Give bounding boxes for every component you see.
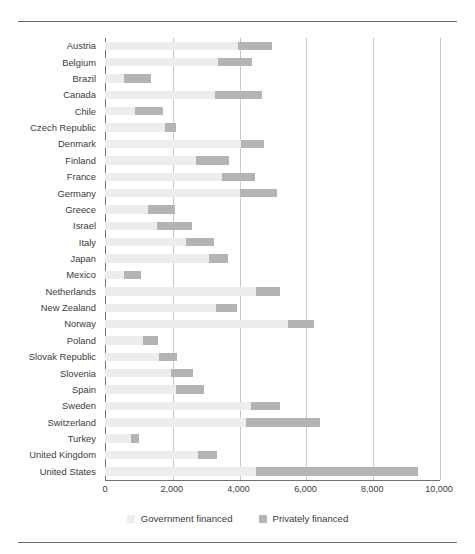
category-label: Greece (0, 205, 96, 215)
category-label: Switzerland (0, 418, 96, 428)
bar-segment-government (105, 42, 238, 50)
bar-row (105, 38, 439, 54)
bar-row (105, 136, 439, 152)
gridline-10000 (440, 38, 441, 480)
category-label: Belgium (0, 58, 96, 68)
bar-segment-private (222, 173, 255, 181)
bar-row (105, 87, 439, 103)
category-label: Brazil (0, 74, 96, 84)
bar-row (105, 185, 439, 201)
bar-row (105, 349, 439, 365)
category-label: Japan (0, 254, 96, 264)
category-label: Israel (0, 221, 96, 231)
bar-segment-government (105, 418, 246, 426)
category-label: Spain (0, 385, 96, 395)
bar-segment-private (256, 467, 418, 475)
x-tick-label: 8,000 (361, 484, 384, 494)
bar-segment-private (251, 402, 280, 410)
legend-swatch-gov (127, 515, 135, 523)
bar-segment-private (240, 189, 277, 197)
bar-segment-private (198, 451, 217, 459)
category-label: Denmark (0, 139, 96, 149)
bar-segment-private (131, 434, 139, 442)
bar-row (105, 169, 439, 185)
category-label: Poland (0, 336, 96, 346)
chart-legend: Government financedPrivately financed (0, 513, 475, 524)
bar-segment-private (135, 107, 163, 115)
bar-segment-private (196, 156, 229, 164)
bar-segment-private (176, 385, 204, 393)
bar-segment-private (215, 91, 262, 99)
category-label: Sweden (0, 401, 96, 411)
category-label: Netherlands (0, 287, 96, 297)
category-label: Chile (0, 107, 96, 117)
bar-row (105, 284, 439, 300)
x-tick-label: 6,000 (294, 484, 317, 494)
bar-segment-private (148, 205, 175, 213)
bar-row (105, 218, 439, 234)
x-tick-label: 2,000 (161, 484, 184, 494)
bar-row (105, 382, 439, 398)
bar-row (105, 234, 439, 250)
bar-segment-private (288, 320, 314, 328)
bar-segment-government (105, 254, 209, 262)
category-label: Norway (0, 319, 96, 329)
category-label: Slovenia (0, 369, 96, 379)
x-tick-label: 4,000 (227, 484, 250, 494)
bar-segment-private (165, 123, 176, 131)
bar-segment-private (246, 418, 320, 426)
bar-row (105, 267, 439, 283)
bar-segment-government (105, 123, 165, 131)
bar-segment-government (105, 467, 256, 475)
bar-segment-government (105, 156, 196, 164)
bar-row (105, 202, 439, 218)
bar-segment-government (105, 222, 157, 230)
bar-segment-private (209, 254, 228, 262)
bar-row (105, 464, 439, 480)
bar-segment-private (218, 58, 252, 66)
bar-row (105, 71, 439, 87)
category-label: United Kingdom (0, 450, 96, 460)
bar-segment-private (159, 353, 177, 361)
bar-segment-private (124, 74, 151, 82)
bar-row (105, 316, 439, 332)
bar-row (105, 153, 439, 169)
plot-area: AustriaBelgiumBrazilCanadaChileCzech Rep… (0, 38, 475, 488)
bar-segment-government (105, 451, 198, 459)
bar-row (105, 333, 439, 349)
category-label: Mexico (0, 270, 96, 280)
category-label: Austria (0, 41, 96, 51)
legend-label: Privately financed (273, 513, 349, 524)
bar-row (105, 120, 439, 136)
bar-row (105, 54, 439, 70)
bar-segment-private (157, 222, 192, 230)
legend-item[interactable]: Government financed (127, 513, 233, 524)
bar-segment-government (105, 369, 171, 377)
bar-segment-private (171, 369, 193, 377)
bar-segment-private (143, 336, 158, 344)
legend-item[interactable]: Privately financed (259, 513, 349, 524)
bar-segment-government (105, 74, 124, 82)
bar-row (105, 431, 439, 447)
legend-label: Government financed (141, 513, 233, 524)
category-label: Germany (0, 189, 96, 199)
bar-segment-private (241, 140, 264, 148)
category-label: Slovak Republic (0, 352, 96, 362)
bar-segment-private (238, 42, 272, 50)
bar-segment-private (186, 238, 214, 246)
value-axis-ticks: 02,0004,0006,0008,00010,000 (105, 484, 439, 500)
bar-row (105, 398, 439, 414)
bar-segment-government (105, 173, 222, 181)
bar-segment-government (105, 91, 215, 99)
bar-row (105, 365, 439, 381)
bar-segment-private (124, 271, 141, 279)
bar-row (105, 447, 439, 463)
bar-segment-government (105, 205, 148, 213)
bar-segment-government (105, 402, 251, 410)
category-label: Finland (0, 156, 96, 166)
chart-figure: AustriaBelgiumBrazilCanadaChileCzech Rep… (0, 0, 475, 554)
bar-segment-government (105, 336, 143, 344)
bar-segment-government (105, 434, 131, 442)
bar-row (105, 300, 439, 316)
bar-segment-government (105, 140, 241, 148)
